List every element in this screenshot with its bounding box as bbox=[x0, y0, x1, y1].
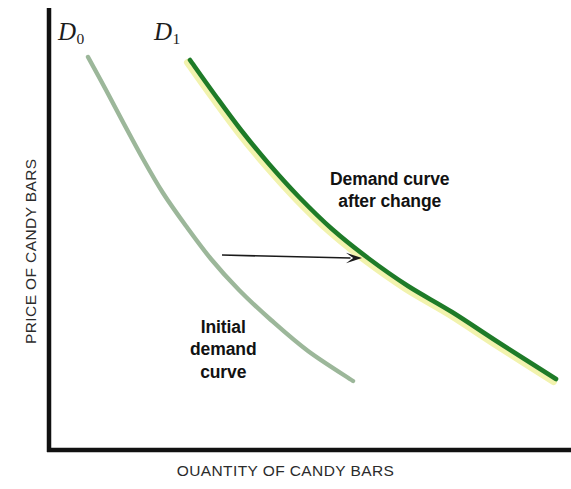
shift-arrow bbox=[222, 253, 362, 263]
x-axis-title: OUANTITY OF CANDY BARS bbox=[0, 462, 571, 480]
annotation-initial-demand-curve: Initial demand curve bbox=[190, 316, 257, 383]
curve-label-d1-subscript: 1 bbox=[173, 30, 181, 47]
curve-label-d1: D1 bbox=[154, 18, 180, 46]
curve-label-d0: D0 bbox=[58, 18, 84, 46]
curve-label-d0-subscript: 0 bbox=[77, 30, 85, 47]
demand-shift-chart: D0 D1 Demand curve after change Initial … bbox=[0, 0, 571, 489]
y-axis-title: PRICE OF CANDY BARS bbox=[22, 158, 40, 344]
chart-plot-area bbox=[0, 0, 571, 489]
annotation-demand-curve-after-change: Demand curve after change bbox=[330, 168, 449, 213]
curve-label-d1-letter: D bbox=[154, 18, 172, 45]
curve-label-d0-letter: D bbox=[58, 18, 76, 45]
